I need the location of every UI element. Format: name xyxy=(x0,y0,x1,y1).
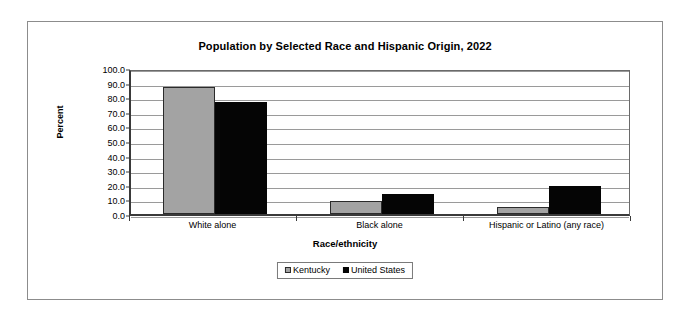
chart-title: Population by Selected Race and Hispanic… xyxy=(28,40,662,52)
chart-legend: KentuckyUnited States xyxy=(277,262,413,279)
y-axis-tick-label: 30.0 xyxy=(81,168,125,177)
x-axis-category-label: Hispanic or Latino (any race) xyxy=(489,220,604,230)
legend-swatch-icon xyxy=(285,267,291,273)
legend-swatch-icon xyxy=(343,267,349,273)
legend-entry-united-states: United States xyxy=(343,265,405,275)
legend-entry-kentucky: Kentucky xyxy=(285,265,330,275)
y-axis-tick-label: 50.0 xyxy=(81,139,125,148)
y-axis-title: Percent xyxy=(55,82,65,162)
x-axis-category-label: White alone xyxy=(189,220,237,230)
legend-label: Kentucky xyxy=(293,265,330,275)
x-axis-tick-mark xyxy=(463,216,464,221)
bar-united-states xyxy=(215,102,267,214)
legend-label: United States xyxy=(351,265,405,275)
y-axis-tick-label: 60.0 xyxy=(81,124,125,133)
y-axis-tick-labels: 100.090.080.070.060.050.040.030.020.010.… xyxy=(77,70,125,216)
y-axis-tick-label: 80.0 xyxy=(81,95,125,104)
bar-united-states xyxy=(382,194,434,214)
bar-kentucky xyxy=(163,87,215,214)
gridline xyxy=(131,71,629,72)
x-axis-tick-mark xyxy=(129,216,130,221)
y-axis-tick-label: 100.0 xyxy=(81,66,125,75)
x-axis-tick-mark xyxy=(296,216,297,221)
y-axis-tick-label: 10.0 xyxy=(81,197,125,206)
y-axis-tick-label: 90.0 xyxy=(81,80,125,89)
x-axis-tick-mark xyxy=(630,216,631,221)
x-axis-title: Race/ethnicity xyxy=(28,238,662,249)
x-axis-category-label: Black alone xyxy=(356,220,403,230)
plot-area xyxy=(129,70,630,216)
bar-kentucky xyxy=(497,207,549,214)
y-axis-tick-label: 20.0 xyxy=(81,182,125,191)
y-axis-tick-label: 70.0 xyxy=(81,109,125,118)
y-axis-tick-label: 0.0 xyxy=(81,212,125,221)
bar-kentucky xyxy=(330,201,382,214)
y-axis-tick-label: 40.0 xyxy=(81,153,125,162)
gridline xyxy=(131,217,629,218)
bar-united-states xyxy=(549,186,601,214)
chart-frame: Population by Selected Race and Hispanic… xyxy=(27,21,663,300)
